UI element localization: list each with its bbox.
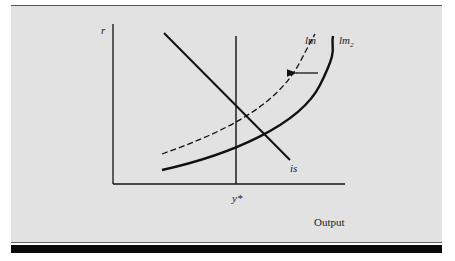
lm-label: lm bbox=[305, 35, 316, 46]
x-axis-label: Output bbox=[314, 217, 345, 228]
y-star-label: y* bbox=[232, 193, 242, 204]
is-lm-diagram bbox=[0, 0, 455, 261]
lm2-label-text: lm bbox=[339, 34, 350, 46]
lm2-label: lm2 bbox=[339, 35, 354, 49]
lm-curve bbox=[162, 34, 315, 154]
lm2-label-subscript: 2 bbox=[350, 41, 354, 49]
y-axis-label: r bbox=[101, 25, 105, 36]
is-label: is bbox=[290, 163, 297, 174]
is-curve bbox=[164, 33, 290, 160]
